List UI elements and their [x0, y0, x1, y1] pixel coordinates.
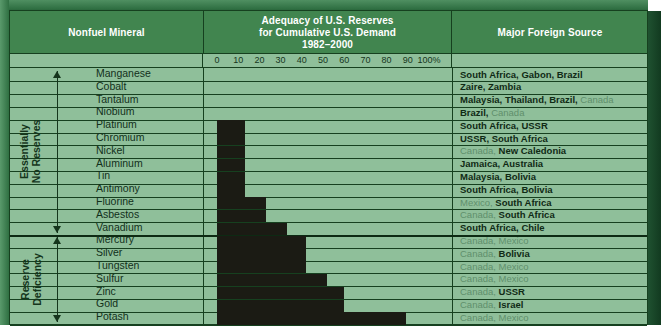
foreign-source-platinum: South Africa, USSR	[460, 119, 646, 133]
bar-zinc	[217, 287, 344, 299]
section-range-arrow	[52, 71, 63, 233]
source-secondary: Canada,	[460, 286, 496, 297]
source-secondary: Canada, Mexico	[460, 235, 529, 246]
bar-platinum	[217, 120, 245, 132]
mineral-name-aluminum: Aluminum	[96, 157, 143, 171]
source-primary: South Africa, Bolivia	[460, 184, 553, 195]
foreign-source-tantalum: Malaysia, Thailand, Brazil, Canada	[460, 93, 646, 107]
source-secondary: Canada, Mexico	[460, 273, 529, 284]
mineral-name-silver: Silver	[96, 246, 122, 260]
mineral-name-platinum: Platinum	[96, 118, 137, 132]
mineral-name-cobalt: Cobalt	[96, 80, 126, 94]
mineral-name-tungsten: Tungsten	[96, 259, 139, 273]
foreign-source-tungsten: Canada, Mexico	[460, 260, 646, 274]
column-header-major-foreign-source-label: Major Foreign Source	[498, 27, 603, 39]
arrow-head-down-icon	[53, 315, 61, 322]
source-primary: South Africa, Gabon, Brazil	[460, 69, 583, 80]
source-secondary: Mexico,	[460, 197, 493, 208]
bar-fluorine	[217, 197, 266, 209]
source-primary: Jamaica, Australia	[460, 158, 543, 169]
foreign-source-manganese: South Africa, Gabon, Brazil	[460, 68, 646, 82]
bar-potash	[217, 312, 406, 324]
arrow-shaft	[57, 237, 58, 323]
source-primary: South Africa, USSR	[460, 120, 548, 131]
source-primary: Zaire, Zambia	[460, 81, 521, 92]
x-axis-tick-50: 50	[318, 55, 328, 65]
source-primary: Brazil,	[460, 107, 489, 118]
mineral-reserves-table-figure: Nonfuel Mineral Adequacy of U.S. Reserve…	[0, 0, 661, 336]
mineral-name-manganese: Manganese	[96, 67, 151, 81]
section-label-line2: No Reserves	[31, 120, 43, 184]
source-primary: South Africa	[496, 209, 555, 220]
bar-tungsten	[217, 261, 306, 273]
foreign-source-asbestos: Canada, South Africa	[460, 208, 646, 222]
mineral-name-asbestos: Asbestos	[96, 208, 139, 222]
source-primary: Israel	[496, 299, 523, 310]
mineral-name-nickel: Nickel	[96, 144, 125, 158]
column-header-nonfuel-mineral: Nonfuel Mineral	[10, 11, 203, 54]
bar-tin	[217, 172, 245, 184]
bar-vanadium	[217, 223, 287, 235]
source-secondary: Canada	[489, 107, 525, 118]
frame-bevel-top	[0, 0, 661, 9]
x-axis-tick-90: 90	[403, 55, 413, 65]
frame-bevel-right	[648, 0, 661, 336]
section-label-line1: Reserve	[20, 253, 32, 306]
x-axis-tick-10: 10	[233, 55, 243, 65]
source-primary: USSR, South Africa	[460, 133, 548, 144]
column-header-nonfuel-mineral-label: Nonfuel Mineral	[68, 27, 145, 39]
frame-corner-bottom-right	[648, 325, 661, 336]
foreign-source-vanadium: South Africa, Chile	[460, 221, 646, 235]
bar-mercury	[217, 236, 306, 248]
bar-aluminum	[217, 159, 245, 171]
source-primary: New Caledonia	[496, 145, 566, 156]
source-primary: USSR	[496, 286, 525, 297]
mineral-name-potash: Potash	[96, 310, 129, 324]
x-axis-tick-30: 30	[276, 55, 286, 65]
source-secondary: Canada,	[460, 209, 496, 220]
column-header-adequacy-line3: 1982–2000	[259, 39, 396, 51]
column-header-major-foreign-source: Major Foreign Source	[452, 11, 648, 54]
bar-chromium	[217, 133, 245, 145]
source-secondary: Canada,	[460, 145, 496, 156]
x-axis-tick-20: 20	[254, 55, 264, 65]
foreign-source-silver: Canada, Bolivia	[460, 247, 646, 261]
frame-bevel-bottom	[0, 325, 661, 336]
x-axis-tick-0: 0	[214, 55, 219, 65]
foreign-source-fluorine: Mexico, South Africa	[460, 196, 646, 210]
source-secondary: Canada	[578, 94, 614, 105]
mineral-name-tin: Tin	[96, 169, 110, 183]
section-label-reserve-deficiency: ReserveDeficiency	[16, 235, 46, 325]
source-primary: Bolivia	[496, 248, 530, 259]
section-label-text: ReserveDeficiency	[20, 253, 43, 306]
x-axis-tick-80: 80	[382, 55, 392, 65]
source-primary: South Africa	[493, 197, 552, 208]
mineral-name-tantalum: Tantalum	[96, 93, 139, 107]
x-axis-row-spacer-left	[10, 54, 203, 67]
foreign-source-antimony: South Africa, Bolivia	[460, 183, 646, 197]
table-body: ManganeseCobaltTantalumNiobiumPlatinumCh…	[10, 68, 647, 324]
x-axis-ticks: 0102030405060708090100%	[203, 54, 452, 67]
section-label-line1: Essentially	[20, 120, 32, 184]
foreign-source-aluminum: Jamaica, Australia	[460, 157, 646, 171]
column-header-adequacy: Adequacy of U.S. Reserves for Cumulative…	[203, 11, 452, 54]
section-label-essentially-no-reserves: EssentiallyNo Reserves	[16, 69, 46, 235]
frame-corner-top-right	[648, 0, 661, 11]
mineral-name-gold: Gold	[96, 297, 118, 311]
source-secondary: Canada,	[460, 248, 496, 259]
source-secondary: Canada, Mexico	[460, 312, 529, 323]
source-primary: Malaysia, Bolivia	[460, 171, 536, 182]
foreign-source-zinc: Canada, USSR	[460, 285, 646, 299]
bar-antimony	[217, 184, 245, 196]
mineral-name-chromium: Chromium	[96, 131, 144, 145]
foreign-source-tin: Malaysia, Bolivia	[460, 170, 646, 184]
arrow-shaft	[57, 71, 58, 233]
arrow-head-down-icon	[53, 226, 61, 233]
foreign-source-niobium: Brazil, Canada	[460, 106, 646, 120]
foreign-source-nickel: Canada, New Caledonia	[460, 144, 646, 158]
frame-bevel-left	[0, 0, 9, 336]
section-label-line2: Deficiency	[31, 253, 43, 306]
arrow-head-up-icon	[53, 237, 61, 244]
x-axis-tick-100: 100%	[417, 55, 440, 65]
section-range-arrow	[52, 237, 63, 323]
